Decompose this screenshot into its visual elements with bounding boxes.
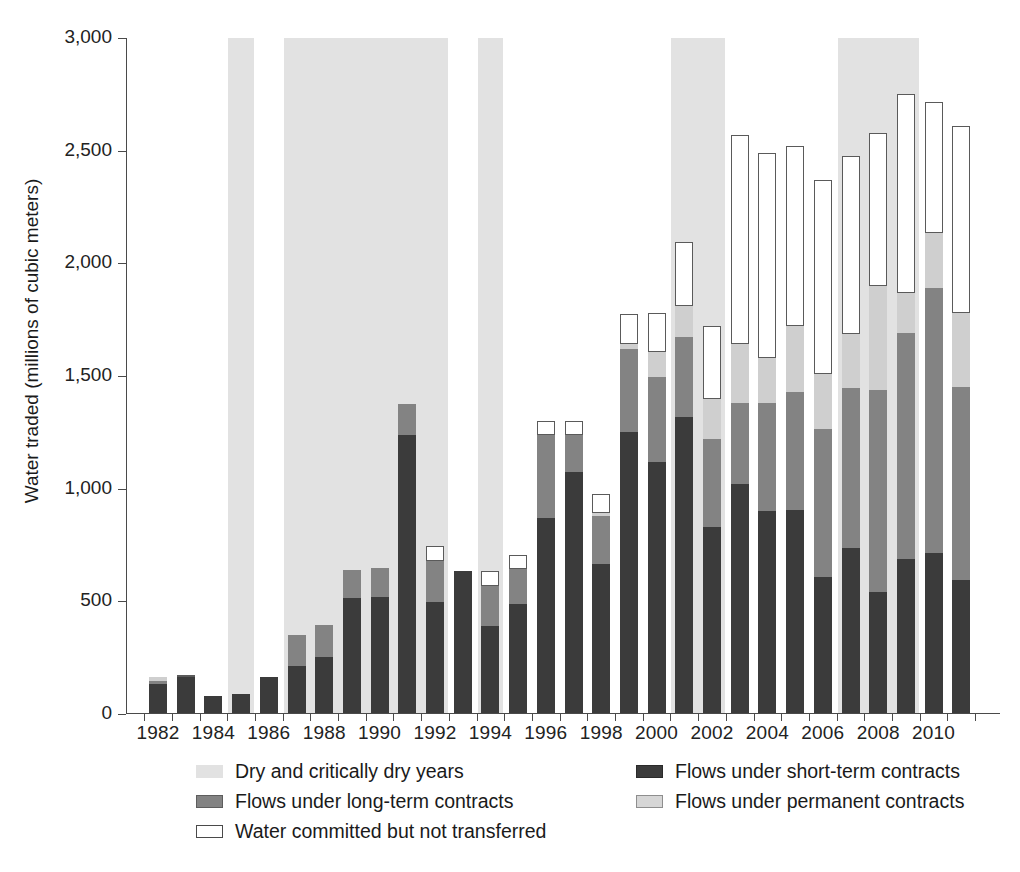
- bar-stack[interactable]: [288, 38, 306, 714]
- bar-segment-long-term: [481, 586, 499, 627]
- bar-stack[interactable]: [232, 38, 250, 714]
- x-axis-tick: [227, 714, 228, 721]
- bar-stack[interactable]: [786, 38, 804, 714]
- bar-segment-long-term: [398, 404, 416, 434]
- bar-segment-permanent: [620, 344, 638, 349]
- bar-segment-short-term: [204, 696, 222, 714]
- bar-segment-long-term: [371, 568, 389, 597]
- legend-label: Flows under long-term contracts: [235, 790, 514, 813]
- bar-segment-long-term: [758, 403, 776, 511]
- bar-stack[interactable]: [371, 38, 389, 714]
- bar-stack[interactable]: [925, 38, 943, 714]
- bar-segment-short-term: [952, 580, 970, 714]
- bar-segment-permanent: [758, 358, 776, 403]
- bar-stack[interactable]: [481, 38, 499, 714]
- bar-stack[interactable]: [149, 38, 167, 714]
- bar-stack[interactable]: [315, 38, 333, 714]
- bar-segment-long-term: [703, 439, 721, 527]
- bar-stack[interactable]: [731, 38, 749, 714]
- bar-stack[interactable]: [537, 38, 555, 714]
- bar-segment-long-term: [288, 635, 306, 665]
- bar-stack[interactable]: [648, 38, 666, 714]
- bar-stack[interactable]: [675, 38, 693, 714]
- bar-segment-short-term: [537, 518, 555, 714]
- y-axis-line: [126, 38, 127, 714]
- x-axis-tick-label: 2008: [857, 722, 900, 744]
- plot-area: [126, 38, 1000, 714]
- bar-segment-long-term: [786, 392, 804, 510]
- bar-stack[interactable]: [426, 38, 444, 714]
- legend-item[interactable]: Water committed but not transferred: [196, 820, 546, 843]
- bar-stack[interactable]: [509, 38, 527, 714]
- bar-segment-committed: [509, 555, 527, 569]
- bar-segment-short-term: [869, 592, 887, 714]
- bar-segment-short-term: [454, 571, 472, 714]
- x-axis-tick: [726, 714, 727, 721]
- bar-segment-long-term: [149, 681, 167, 683]
- legend-label: Dry and critically dry years: [235, 760, 464, 783]
- bar-segment-committed: [620, 314, 638, 344]
- bar-segment-long-term: [509, 569, 527, 604]
- bar-segment-short-term: [620, 432, 638, 714]
- bar-stack[interactable]: [260, 38, 278, 714]
- bar-segment-committed: [648, 313, 666, 352]
- bar-segment-permanent: [842, 334, 860, 388]
- bar-segment-committed: [786, 146, 804, 326]
- bar-stack[interactable]: [343, 38, 361, 714]
- bar-segment-long-term: [315, 625, 333, 657]
- bar-segment-long-term: [952, 387, 970, 580]
- x-axis-tick: [587, 714, 588, 721]
- bar-stack[interactable]: [565, 38, 583, 714]
- x-axis-tick: [698, 714, 699, 721]
- legend-item[interactable]: Flows under permanent contracts: [636, 790, 964, 813]
- x-axis-tick: [310, 714, 311, 721]
- bar-stack[interactable]: [177, 38, 195, 714]
- bar-segment-committed: [842, 156, 860, 334]
- bar-stack[interactable]: [703, 38, 721, 714]
- bar-segment-committed: [537, 421, 555, 435]
- bar-stack[interactable]: [620, 38, 638, 714]
- bar-stack[interactable]: [592, 38, 610, 714]
- bar-stack[interactable]: [454, 38, 472, 714]
- x-axis-tick: [504, 714, 505, 721]
- bar-segment-long-term: [814, 429, 832, 577]
- legend-item[interactable]: Dry and critically dry years: [196, 760, 464, 783]
- x-axis-tick: [366, 714, 367, 721]
- x-axis-tick: [892, 714, 893, 721]
- bar-segment-committed: [565, 421, 583, 435]
- bar-stack[interactable]: [952, 38, 970, 714]
- bar-segment-permanent: [925, 233, 943, 288]
- bar-segment-short-term: [814, 577, 832, 714]
- bar-segment-long-term: [343, 570, 361, 598]
- bar-segment-short-term: [398, 435, 416, 714]
- bar-segment-short-term: [371, 597, 389, 714]
- chart-figure: Water traded (millions of cubic meters) …: [0, 0, 1020, 872]
- x-axis-tick: [615, 714, 616, 721]
- bar-stack[interactable]: [398, 38, 416, 714]
- legend-label: Water committed but not transferred: [235, 820, 546, 843]
- x-axis-tick: [920, 714, 921, 721]
- bar-stack[interactable]: [869, 38, 887, 714]
- legend-swatch-icon: [196, 795, 223, 808]
- x-axis-tick-label: 1990: [358, 722, 401, 744]
- bar-segment-short-term: [177, 677, 195, 714]
- bar-segment-permanent: [675, 306, 693, 336]
- bar-segment-permanent: [149, 677, 167, 682]
- x-axis-tick: [532, 714, 533, 721]
- bar-segment-permanent: [869, 286, 887, 390]
- bar-stack[interactable]: [814, 38, 832, 714]
- bar-stack[interactable]: [758, 38, 776, 714]
- bar-stack[interactable]: [204, 38, 222, 714]
- bar-stack[interactable]: [897, 38, 915, 714]
- x-axis-tick: [477, 714, 478, 721]
- legend-item[interactable]: Flows under short-term contracts: [636, 760, 960, 783]
- bar-segment-short-term: [260, 677, 278, 714]
- x-axis-tick-label: 1984: [192, 722, 235, 744]
- legend-item[interactable]: Flows under long-term contracts: [196, 790, 514, 813]
- bar-segment-permanent: [952, 313, 970, 387]
- bar-segment-permanent: [786, 326, 804, 391]
- bar-segment-short-term: [481, 626, 499, 714]
- bar-stack[interactable]: [842, 38, 860, 714]
- legend-swatch-icon: [196, 765, 223, 778]
- bar-segment-short-term: [925, 553, 943, 714]
